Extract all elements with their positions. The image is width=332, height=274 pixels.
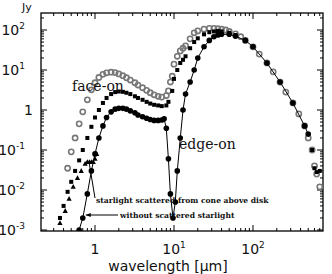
data-point — [80, 109, 85, 114]
data-point — [65, 166, 70, 171]
y-tick-label: 10-1 — [0, 141, 25, 158]
y-tick-label-exponent: -2 — [16, 181, 25, 191]
data-point — [243, 38, 249, 44]
data-point — [71, 184, 76, 189]
y-axis-label: Jy — [21, 1, 32, 14]
annotation-starlight-scattered: starlight scattered from cone above disk — [96, 196, 269, 205]
y-tick-label: 10-3 — [0, 221, 25, 238]
y-tick-label-exponent: 2 — [19, 21, 25, 31]
data-point — [226, 32, 232, 38]
sed-chart: 1101102102101110-110-210-3wavelength [μm… — [0, 0, 332, 274]
data-point — [318, 169, 322, 173]
data-point — [195, 55, 201, 61]
data-point — [97, 108, 101, 112]
data-point — [164, 125, 170, 131]
data-point — [184, 54, 188, 58]
data-point — [160, 104, 164, 108]
data-point — [62, 204, 66, 208]
data-point — [128, 92, 132, 96]
data-point — [148, 102, 152, 106]
data-point — [175, 54, 180, 59]
data-point — [92, 156, 97, 161]
data-point — [166, 156, 172, 162]
data-point — [233, 33, 239, 39]
data-point — [73, 169, 77, 173]
annotation-face-on: face-on — [72, 78, 124, 94]
data-point — [310, 148, 314, 152]
data-point — [57, 220, 62, 225]
x-axis-label: wavelength [μm] — [108, 258, 227, 274]
data-point — [164, 103, 168, 107]
data-point — [201, 44, 207, 50]
data-point — [105, 96, 109, 100]
data-point — [141, 98, 145, 102]
data-point — [69, 180, 73, 184]
data-point — [172, 77, 176, 81]
data-point — [161, 116, 167, 122]
data-point — [85, 191, 91, 197]
data-point — [207, 30, 211, 34]
data-point — [73, 135, 78, 140]
data-point — [93, 115, 97, 119]
data-point — [312, 166, 316, 170]
data-point — [145, 100, 149, 104]
data-point — [76, 227, 82, 233]
data-point — [156, 103, 160, 107]
y-tick-label: 10-2 — [0, 181, 25, 198]
data-point — [250, 44, 256, 50]
data-point — [183, 43, 188, 48]
series-face-on — [65, 26, 322, 190]
series-intermediate-inclination — [58, 29, 322, 220]
y-tick-label-exponent: -1 — [16, 141, 25, 151]
data-point — [290, 100, 296, 106]
data-point — [207, 38, 213, 44]
data-point — [188, 36, 193, 41]
y-tick-label-exponent: -3 — [16, 221, 25, 231]
annotations: face-onedge-onstarlight scattered from c… — [72, 78, 269, 220]
data-point — [136, 96, 140, 100]
data-point — [77, 121, 82, 126]
data-point — [166, 100, 170, 104]
data-point — [81, 148, 85, 152]
x-tick-label-exponent: 2 — [259, 240, 265, 250]
data-point — [63, 208, 68, 213]
data-point — [175, 68, 179, 72]
data-point — [124, 91, 128, 95]
data-point — [66, 190, 70, 194]
data-point — [170, 89, 174, 93]
data-point — [219, 32, 225, 38]
data-point — [152, 103, 156, 107]
arrowhead-icon — [86, 213, 91, 217]
data-point — [264, 60, 270, 66]
data-point — [77, 158, 81, 162]
data-point — [96, 135, 102, 141]
data-point — [180, 107, 186, 113]
data-point — [195, 28, 200, 33]
annotation-edge-on: edge-on — [179, 136, 236, 152]
data-point — [85, 97, 90, 102]
x-tick-label: 101 — [162, 240, 186, 257]
y-tick-label: 102 — [1, 21, 25, 38]
plot-axes: 1101102102101110-110-210-3wavelength [μm… — [0, 1, 323, 274]
data-point — [317, 184, 322, 189]
x-tick-label: 102 — [241, 240, 265, 257]
data-point — [69, 149, 74, 154]
data-point — [183, 91, 189, 97]
annotation-without-scattered: without scattered starlight — [119, 211, 235, 220]
data-point — [305, 131, 311, 137]
y-tick-label-exponent: 1 — [19, 61, 25, 71]
data-point — [89, 168, 95, 174]
data-point — [104, 115, 110, 121]
data-point — [188, 46, 192, 50]
data-point — [201, 27, 206, 32]
data-point — [202, 32, 206, 36]
data-point — [196, 36, 200, 40]
y-tick-label: 1 — [24, 102, 33, 118]
data-point — [212, 29, 216, 33]
data-point — [80, 215, 86, 221]
data-point — [85, 136, 89, 140]
data-point — [174, 168, 180, 174]
data-point — [58, 216, 62, 220]
data-point — [192, 40, 196, 44]
data-point — [100, 123, 106, 129]
